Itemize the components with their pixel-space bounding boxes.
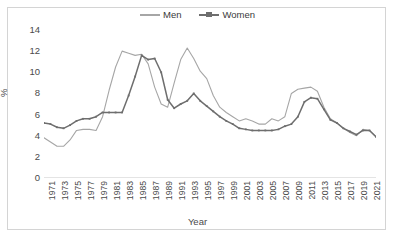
- series-marker-women: [343, 127, 345, 129]
- series-marker-women: [154, 58, 156, 60]
- series-marker-women: [258, 130, 260, 132]
- x-axis-tick-label: 1985: [139, 181, 148, 200]
- x-axis-tick-label: 2021: [373, 181, 382, 200]
- x-axis-tick-label: 1999: [230, 181, 239, 200]
- series-marker-women: [271, 130, 273, 132]
- y-axis-tick-label: 0: [18, 173, 40, 183]
- series-marker-women: [160, 71, 162, 73]
- x-axis-tick-label: 1989: [165, 181, 174, 200]
- series-marker-women: [50, 123, 52, 125]
- series-marker-women: [245, 128, 247, 130]
- x-axis-tick-label: 2019: [360, 181, 369, 200]
- series-marker-women: [206, 105, 208, 107]
- series-marker-women: [180, 103, 182, 105]
- series-marker-women: [44, 122, 45, 124]
- series-marker-women: [141, 54, 143, 56]
- series-marker-women: [225, 120, 227, 122]
- series-marker-women: [193, 93, 195, 95]
- series-marker-women: [284, 125, 286, 127]
- x-axis-tick-label: 1973: [61, 181, 70, 200]
- series-marker-women: [89, 118, 91, 120]
- series-line-women: [44, 55, 376, 136]
- x-axis-tick-label: 1995: [204, 181, 213, 200]
- series-marker-women: [167, 99, 169, 101]
- series-marker-women: [290, 123, 292, 125]
- series-marker-women: [232, 123, 234, 125]
- x-axis-tick-label: 1987: [152, 181, 161, 200]
- x-axis-tick-label: 1977: [87, 181, 96, 200]
- x-axis-tick-label: 2013: [321, 181, 330, 200]
- x-axis-tick-label: 1991: [178, 181, 187, 200]
- series-marker-women: [349, 131, 351, 133]
- x-axis-tick-label: 1981: [113, 181, 122, 200]
- series-marker-women: [251, 130, 253, 132]
- y-axis-title: %: [0, 89, 9, 97]
- x-axis-tick-label: 2015: [334, 181, 343, 200]
- series-marker-women: [76, 120, 78, 122]
- x-axis-tick-label: 2009: [295, 181, 304, 200]
- x-axis-tick-label: 1971: [48, 181, 57, 200]
- chart-container: Men Women 02468101214 % 1971197319751977…: [0, 0, 395, 239]
- series-marker-women: [173, 107, 175, 109]
- y-axis-tick-label: 12: [18, 46, 40, 56]
- x-axis-tick-label: 2017: [347, 181, 356, 200]
- y-axis-tick-label: 4: [18, 131, 40, 141]
- x-axis-tick-label: 2001: [243, 181, 252, 200]
- series-marker-women: [69, 124, 71, 126]
- series-marker-women: [115, 112, 117, 114]
- series-marker-women: [362, 130, 364, 132]
- series-marker-women: [56, 126, 58, 128]
- series-marker-women: [186, 100, 188, 102]
- series-line-men: [44, 48, 376, 146]
- x-axis-title: Year: [0, 216, 395, 227]
- series-marker-women: [303, 101, 305, 103]
- x-axis-tick-label: 1997: [217, 181, 226, 200]
- series-marker-women: [323, 108, 325, 110]
- series-marker-women: [128, 95, 130, 97]
- x-axis-tick-label: 2005: [269, 181, 278, 200]
- series-marker-women: [121, 112, 123, 114]
- series-marker-women: [199, 100, 201, 102]
- series-marker-women: [134, 76, 136, 78]
- series-marker-women: [264, 130, 266, 132]
- series-marker-women: [212, 111, 214, 113]
- x-axis-tick-label: 1993: [191, 181, 200, 200]
- x-axis-tick-label: 2011: [308, 181, 317, 199]
- series-marker-women: [219, 116, 221, 118]
- y-axis-tick-label: 14: [18, 25, 40, 35]
- series-marker-women: [330, 119, 332, 121]
- series-marker-women: [317, 98, 319, 100]
- x-axis-ticks: 1971197319751977197919811983198519871989…: [44, 181, 376, 221]
- y-axis-ticks: 02468101214: [14, 30, 40, 178]
- series-marker-women: [95, 116, 97, 118]
- y-axis-tick-label: 10: [18, 68, 40, 78]
- series-marker-women: [102, 112, 104, 114]
- series-marker-women: [297, 116, 299, 118]
- series-marker-women: [336, 122, 338, 124]
- series-marker-women: [277, 128, 279, 130]
- series-marker-women: [310, 97, 312, 99]
- series-lines: [44, 30, 376, 178]
- series-marker-women: [147, 59, 149, 61]
- series-marker-women: [63, 127, 65, 129]
- x-axis-tick-label: 2007: [282, 181, 291, 200]
- y-axis-tick-label: 8: [18, 89, 40, 99]
- plot-area: [44, 30, 376, 178]
- series-marker-women: [369, 130, 371, 132]
- x-axis-tick-label: 1979: [100, 181, 109, 200]
- x-axis-tick-label: 1975: [74, 181, 83, 200]
- series-marker-women: [108, 112, 110, 114]
- series-marker-women: [356, 134, 358, 136]
- series-marker-women: [238, 127, 240, 129]
- x-axis-tick-label: 2003: [256, 181, 265, 200]
- y-axis-tick-label: 2: [18, 152, 40, 162]
- x-axis-tick-label: 1983: [126, 181, 135, 200]
- series-marker-women: [375, 136, 376, 138]
- y-axis-tick-label: 6: [18, 110, 40, 120]
- series-marker-women: [82, 118, 84, 120]
